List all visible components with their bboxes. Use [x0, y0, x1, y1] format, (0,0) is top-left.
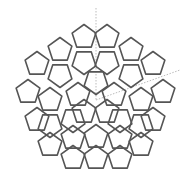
pentagon — [95, 100, 119, 123]
pentagon-tiling-diagram — [0, 0, 186, 183]
pentagon — [72, 25, 96, 48]
pentagon — [95, 25, 119, 48]
pentagon — [129, 133, 153, 156]
pentagon — [84, 125, 108, 148]
pentagon-group — [16, 25, 175, 169]
pentagon — [38, 133, 62, 156]
pentagon — [129, 88, 153, 111]
pentagon — [16, 80, 40, 103]
pentagon — [151, 80, 175, 103]
pentagon — [84, 146, 108, 169]
pentagon — [25, 52, 49, 75]
pentagon — [119, 38, 143, 61]
pentagon — [38, 115, 62, 138]
pentagon — [48, 65, 72, 88]
pentagon — [48, 38, 72, 61]
pentagon — [141, 52, 165, 75]
guide-line — [96, 70, 180, 100]
pentagon — [38, 88, 62, 111]
